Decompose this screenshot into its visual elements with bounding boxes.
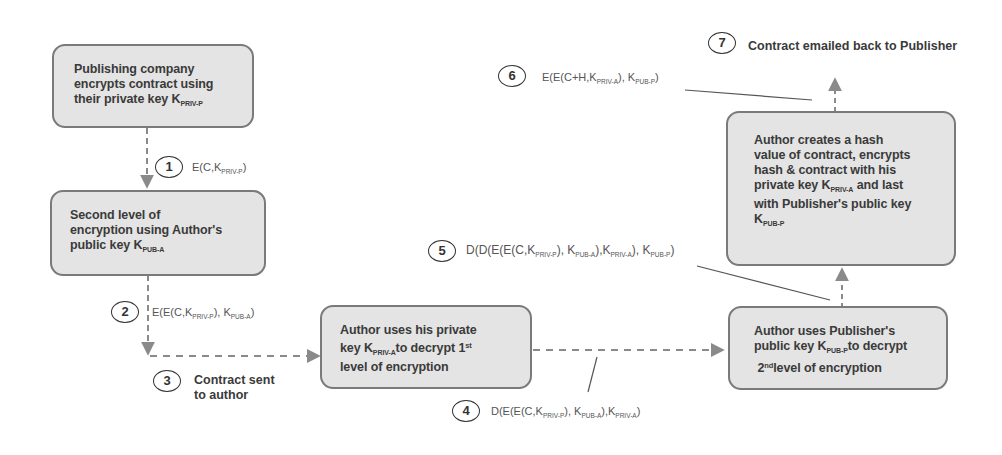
box-text: Author uses his private [340, 323, 512, 338]
box-publisher-encrypts: Publishing company encrypts contract usi… [52, 44, 254, 128]
box-text: public key KPUB-A [70, 238, 246, 257]
step-1-formula: E(C,KPRIV-P) [192, 160, 246, 179]
callout-step5 [697, 266, 830, 300]
box-text: encrypts contract using [74, 77, 232, 92]
step-2-formula: E(E(C,KPRIV-P), KPUB-A) [152, 305, 254, 324]
box-text: Author creates a hash [754, 133, 928, 148]
step-7-badge: 7 [708, 32, 736, 54]
step-7-text: Contract emailed back to Publisher [748, 39, 957, 54]
step-3-badge: 3 [153, 370, 181, 392]
step-3-line: to author [194, 388, 275, 403]
box-text: private key KPRIV-A and last [754, 178, 928, 197]
box-text: encryption using Author's [70, 223, 246, 238]
box-text: Second level of [70, 208, 246, 223]
box-text: hash & contract with his [754, 163, 928, 178]
box-author-hash: Author creates a hash value of contract,… [726, 111, 956, 266]
box-text: KPUB-P [754, 212, 928, 231]
box-text: 2ndlevel of encryption [754, 358, 922, 376]
step-5-formula: D(D(E(E(C,KPRIV-P), KPUB-A),KPRIV-A), KP… [466, 243, 674, 262]
step-3-text: Contract sent to author [194, 373, 275, 403]
box-text: Publishing company [74, 62, 232, 77]
box-text: key KPRIV-Ato decrypt 1st [340, 338, 512, 360]
step-4-badge: 4 [452, 400, 480, 422]
callout-step6 [685, 90, 812, 100]
step-5-badge: 5 [428, 240, 456, 262]
box-text: Author uses Publisher's [754, 324, 922, 339]
box-author-decrypt-1: Author uses his private key KPRIV-Ato de… [320, 305, 532, 389]
box-author-decrypt-2: Author uses Publisher's public key KPUB-… [728, 306, 948, 390]
box-text: level of encryption [340, 360, 512, 375]
box-text: value of contract, encrypts [754, 148, 928, 163]
step-3-line: Contract sent [194, 373, 275, 388]
step-4-formula: D(E(E(C,KPRIV-P), KPUB-A),KPRIV-A) [491, 404, 640, 423]
step-6-badge: 6 [498, 65, 526, 87]
callout-step4 [588, 357, 597, 392]
step-6-formula: E(E(C+H,KPRIV-A), KPUB-P) [542, 70, 659, 89]
box-text: with Publisher's public key [754, 197, 928, 212]
box-text: their private key KPRIV-P [74, 92, 232, 111]
box-second-level: Second level of encryption using Author'… [50, 190, 266, 276]
step-1-badge: 1 [155, 156, 183, 178]
step-2-badge: 2 [111, 301, 139, 323]
box-text: public key KPUB-Pto decrypt [754, 339, 922, 358]
